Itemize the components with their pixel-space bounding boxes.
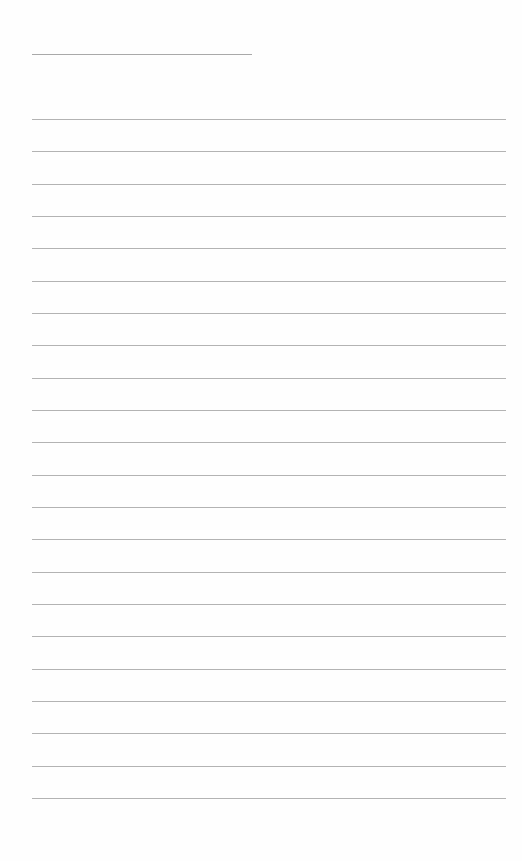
ruled-line xyxy=(32,410,506,411)
ruled-line xyxy=(32,248,506,249)
ruled-line xyxy=(32,669,506,670)
ruled-line xyxy=(32,119,506,120)
ruled-line xyxy=(32,313,506,314)
ruled-line xyxy=(32,216,506,217)
ruled-line xyxy=(32,345,506,346)
ruled-line xyxy=(32,281,506,282)
ruled-line xyxy=(32,636,506,637)
ruled-line xyxy=(32,378,506,379)
ruled-line xyxy=(32,442,506,443)
ruled-line xyxy=(32,475,506,476)
ruled-line xyxy=(32,539,506,540)
lined-paper-page xyxy=(0,0,522,861)
ruled-line xyxy=(32,507,506,508)
ruled-line xyxy=(32,733,506,734)
ruled-line xyxy=(32,184,506,185)
ruled-line xyxy=(32,766,506,767)
ruled-line xyxy=(32,798,506,799)
ruled-line xyxy=(32,151,506,152)
ruled-line xyxy=(32,604,506,605)
ruled-line xyxy=(32,701,506,702)
title-line xyxy=(32,54,252,55)
ruled-line xyxy=(32,572,506,573)
